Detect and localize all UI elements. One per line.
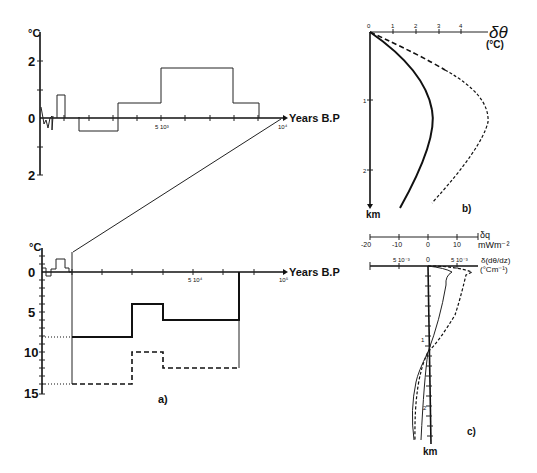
c-q-unit: mWm⁻² [478, 240, 510, 250]
a-bottom-ytick-5: 5 [28, 305, 35, 320]
a-bottom-xtick-end: 10⁵ [279, 277, 289, 283]
b-ytick-2: 2 [363, 168, 367, 174]
b-xtick-0: 0 [367, 23, 371, 29]
c-qtick-10: 10 [453, 241, 461, 248]
b-ytick-1: 1 [363, 98, 367, 104]
c-grad-label: δ(dθ/dz) [481, 256, 511, 265]
figure: °C 2 0 2 5 10³ 10⁴ Years B.P [0, 0, 537, 473]
a-top-xlabel: Years B.P [289, 112, 340, 124]
a-top-xtick-mid: 5 10³ [155, 124, 169, 130]
a-top-ytick-0: 0 [28, 111, 35, 126]
b-xtick-3: 3 [437, 23, 441, 29]
panel-b [367, 29, 488, 209]
c-qtick-neg20: -20 [361, 241, 371, 248]
c-ylabel: km [423, 446, 438, 457]
c-ytick-1: 1 [421, 337, 425, 343]
b-xunit: (°C) [486, 39, 504, 50]
c-gtick-left: 5 10⁻³ [393, 257, 410, 263]
a-bottom-xtick-mid: 5 10⁴ [188, 277, 203, 283]
b-xtick-1: 1 [391, 23, 395, 29]
a-bottom-ytick-0: 0 [28, 265, 35, 280]
a-bottom-ylabel: °C [29, 241, 41, 253]
c-qtick-neg10: -10 [392, 241, 402, 248]
c-qtick-0: 0 [426, 241, 430, 248]
a-top-ylabel: °C [28, 27, 40, 39]
b-xtick-4: 4 [459, 23, 463, 29]
c-grad-unit: (°Cm⁻¹) [480, 265, 508, 274]
c-q-label: δq [480, 230, 490, 240]
a-top-ytick-2: 2 [28, 54, 35, 69]
panel-b-label: b) [462, 203, 471, 214]
a-bottom-ytick-15: 15 [24, 386, 38, 401]
a-top-ytick-neg2: 2 [28, 168, 35, 183]
panel-c-label: c) [467, 426, 476, 437]
a-top-xtick-end: 10⁴ [278, 124, 288, 130]
b-ylabel: km [366, 209, 381, 220]
panel-a-bottom [39, 248, 288, 394]
b-xtick-2: 2 [414, 23, 418, 29]
c-gtick-right: 5 10⁻³ [451, 257, 468, 263]
panel-a-top [37, 32, 288, 252]
c-gtick-0: 0 [426, 256, 430, 263]
a-bottom-ytick-10: 10 [24, 345, 38, 360]
panel-a-label: a) [158, 393, 168, 405]
a-bottom-xlabel: Years B.P [289, 266, 340, 278]
